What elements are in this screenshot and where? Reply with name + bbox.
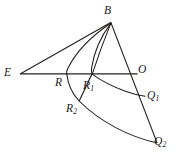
point-label-b: B [104, 5, 111, 17]
point-label-r1: R1 [83, 80, 94, 92]
point-label-q1-subscript: 1 [156, 94, 160, 103]
segment-b-q2 [111, 22, 157, 142]
point-label-r1-subscript: 1 [90, 84, 94, 93]
point-label-r: R [55, 77, 62, 89]
curve-r-to-r2-to-q2 [67, 74, 157, 142]
point-label-q1: Q1 [147, 90, 159, 102]
curve-r1-to-q1 [92, 74, 145, 96]
point-label-r2-base: R [66, 102, 73, 114]
point-label-q1-base: Q [147, 89, 155, 101]
point-label-q2: Q2 [154, 136, 166, 148]
point-label-q2-base: Q [154, 135, 162, 147]
point-label-o: O [138, 64, 146, 76]
point-label-r1-base: R [83, 79, 90, 91]
point-label-r2-subscript: 2 [73, 107, 77, 116]
curve-b-to-r [67, 23, 111, 74]
point-label-r2: R2 [66, 103, 77, 115]
geometry-figure: B E O R R1 R2 Q1 Q2 [0, 0, 175, 159]
point-label-e: E [4, 67, 11, 79]
point-label-q2-subscript: 2 [163, 140, 167, 149]
